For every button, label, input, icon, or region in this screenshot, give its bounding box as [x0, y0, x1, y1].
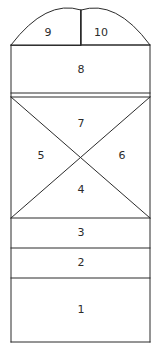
region-label-6: 6: [119, 149, 126, 162]
region-label-7: 7: [78, 117, 85, 130]
region-label-2: 2: [78, 256, 85, 269]
region-label-10: 10: [94, 26, 108, 39]
diagram-root: 9 10 8 7 5 6 4 3 2 1: [0, 0, 160, 348]
region-label-5: 5: [38, 149, 45, 162]
region-label-8: 8: [78, 63, 85, 76]
region-label-3: 3: [78, 226, 85, 239]
region-label-4: 4: [78, 183, 85, 196]
numbered-regions-diagram: 9 10 8 7 5 6 4 3 2 1: [0, 0, 160, 348]
region-label-1: 1: [78, 303, 85, 316]
region-label-9: 9: [45, 26, 52, 39]
